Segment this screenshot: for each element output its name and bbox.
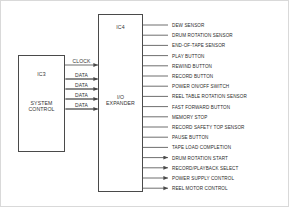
ic4-identifier: IC4 [99, 25, 142, 31]
block-diagram: IC3 SYSTEM CONTROL IC4 I/O EXPANDER CLOC… [0, 0, 290, 208]
signal-label-rewind-button: REWIND BUTTON [172, 63, 212, 68]
ic3-identifier: IC3 [19, 72, 64, 78]
bus-label-clock-0: CLOCK [65, 58, 98, 64]
signal-label-record-playback-select: RECORD/PLAYBACK SELECT [172, 165, 238, 170]
bus-label-data-4: DATA [65, 102, 98, 108]
signal-label-reel-table-rotation-sensor: REEL TABLE ROTATION SENSOR [172, 94, 247, 99]
signal-label-pause-button: PAUSE BUTTON [172, 135, 209, 140]
signal-label-dew-sensor: DEW SENSOR [172, 23, 204, 28]
signal-label-drum-rotation-start: DRUM ROTATION START [172, 155, 228, 160]
signal-label-memory-stop: MEMORY STOP [172, 114, 207, 119]
signal-label-tape-load-completion: TAPE LOAD COMPLETION [172, 145, 231, 150]
bus-label-data-2: DATA [65, 82, 98, 88]
ic4-name: I/O EXPANDER [99, 95, 142, 107]
signal-label-record-safety-top-sensor: RECORD SAFETY TOP SENSOR [172, 125, 245, 130]
signal-label-end-of-tape-sensor: END-OF-TAPE SENSOR [172, 43, 225, 48]
signal-label-reel-motor-control: REEL MOTOR CONTROL [172, 186, 228, 191]
signal-label-power-on-off-switch: POWER ON/OFF SWITCH [172, 84, 229, 89]
ic3-name: SYSTEM CONTROL [19, 101, 64, 113]
signal-label-fast-forward-button: FAST FORWARD BUTTON [172, 104, 230, 109]
signal-label-record-button: RECORD BUTTON [172, 74, 213, 79]
ic3-system-control-block: IC3 SYSTEM CONTROL [18, 55, 65, 152]
signal-label-drum-rotation-sensor: DRUM ROTATION SENSOR [172, 33, 233, 38]
ic3-name-line2: CONTROL [28, 106, 54, 112]
ic4-name-line2: EXPANDER [106, 100, 135, 106]
signal-label-play-button: PLAY BUTTON [172, 53, 205, 58]
signal-wire-group [143, 25, 168, 188]
signal-label-power-supply-control: POWER SUPPLY CONTROL [172, 176, 234, 181]
bus-label-data-1: DATA [65, 72, 98, 78]
ic4-io-expander-block: IC4 I/O EXPANDER [98, 14, 143, 192]
bus-label-data-3: DATA [65, 92, 98, 98]
